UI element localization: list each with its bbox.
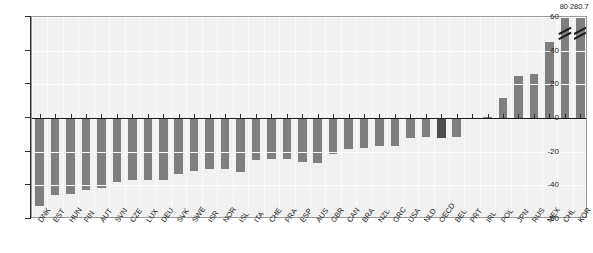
bar-slot: [511, 17, 526, 217]
bar-slot: [557, 17, 572, 217]
gridline-vertical: [248, 17, 249, 217]
gridline-vertical: [109, 17, 110, 217]
gridline-vertical: [140, 17, 141, 217]
gridline-vertical: [202, 17, 203, 217]
bar-fin: [82, 118, 91, 190]
bar-chl: [561, 16, 570, 118]
bar-est: [51, 118, 60, 195]
bar-slot: [156, 17, 171, 217]
bar-can: [344, 118, 353, 149]
bar-slot: [464, 17, 479, 217]
bar-slot: [63, 17, 78, 217]
gridline-vertical: [464, 17, 465, 217]
bar-slot: [418, 17, 433, 217]
bar-slot: [32, 17, 47, 217]
bar-bra: [360, 118, 369, 148]
gridline-vertical: [125, 17, 126, 217]
plot-area: [31, 16, 587, 218]
bar-slot: [94, 17, 109, 217]
bar-svk: [174, 118, 183, 174]
y-axis: [24, 16, 31, 218]
gridline-vertical: [47, 17, 48, 217]
bar-esp: [298, 118, 307, 162]
bar-slot: [310, 17, 325, 217]
gridline-vertical: [418, 17, 419, 217]
bar-fra: [283, 118, 292, 159]
bar-che: [267, 118, 276, 159]
gridline-vertical: [356, 17, 357, 217]
bar-slot: [403, 17, 418, 217]
bar-value-label: 80: [560, 2, 568, 11]
y-axis-tick-label: 0: [531, 113, 559, 122]
gridline-vertical: [63, 17, 64, 217]
bar-slot: [202, 17, 217, 217]
bar-slot: [140, 17, 155, 217]
bar-hun: [66, 118, 75, 194]
bar-value-label: 280.7: [570, 2, 589, 11]
bar-bel: [452, 118, 461, 137]
bar-nld: [422, 118, 431, 137]
bar-gbr: [329, 118, 338, 154]
gridline-vertical: [573, 17, 574, 217]
gridline-vertical: [403, 17, 404, 217]
bar-slot: [186, 17, 201, 217]
bar-slot: [295, 17, 310, 217]
gridline-vertical: [186, 17, 187, 217]
bar-slot: [495, 17, 510, 217]
bar-slot: [47, 17, 62, 217]
bar-slot: [387, 17, 402, 217]
gridline: [32, 152, 586, 153]
gridline-vertical: [217, 17, 218, 217]
gridline-vertical: [295, 17, 296, 217]
bar-slot: [233, 17, 248, 217]
bar-isl: [236, 118, 245, 172]
gridline: [32, 51, 586, 52]
bar-slot: [109, 17, 124, 217]
bar-jpn: [514, 76, 523, 118]
bar-slot: [78, 17, 93, 217]
zero-line: [32, 118, 586, 119]
bar-deu: [159, 118, 168, 180]
bar-slot: [356, 17, 371, 217]
bar-slot: [480, 17, 495, 217]
gridline-vertical: [171, 17, 172, 217]
y-axis-tick-label: 40: [531, 45, 559, 54]
gridline-vertical: [32, 17, 33, 217]
bar-slot: [279, 17, 294, 217]
y-axis-tick-label: -40: [531, 180, 559, 189]
bar-slot: [264, 17, 279, 217]
gridline-vertical: [495, 17, 496, 217]
gridline-vertical: [310, 17, 311, 217]
bar-isr: [205, 118, 214, 169]
gridline-vertical: [449, 17, 450, 217]
y-axis-tick-label: 60: [531, 12, 559, 21]
bar-slot: [573, 17, 587, 217]
gridline: [32, 185, 586, 186]
bar-slot: [325, 17, 340, 217]
gridline-vertical: [480, 17, 481, 217]
gridline: [32, 17, 586, 18]
bar-slot: [171, 17, 186, 217]
bar-slot: [217, 17, 232, 217]
gridline-vertical: [341, 17, 342, 217]
bar-cze: [128, 118, 137, 180]
gridline: [32, 84, 586, 85]
gridline-vertical: [387, 17, 388, 217]
bar-aut: [97, 118, 106, 188]
y-axis-tick-label: -20: [531, 146, 559, 155]
gridline-vertical: [372, 17, 373, 217]
bar-kor: [576, 16, 585, 118]
bar-svn: [113, 118, 122, 182]
gridline-vertical: [434, 17, 435, 217]
y-axis-tick-label: -60: [531, 214, 559, 223]
gridline-vertical: [264, 17, 265, 217]
bar-aus: [313, 118, 322, 163]
bar-slot: [341, 17, 356, 217]
bar-nzl: [375, 118, 384, 146]
gridline-vertical: [94, 17, 95, 217]
bar-slot: [248, 17, 263, 217]
gridline-vertical: [156, 17, 157, 217]
x-axis-labels: DNKESTHUNFINAUTSVNCZELUXDEUSVKSWEISRNORI…: [31, 219, 587, 253]
bar-lux: [144, 118, 153, 180]
y-axis-tick-label: 20: [531, 79, 559, 88]
